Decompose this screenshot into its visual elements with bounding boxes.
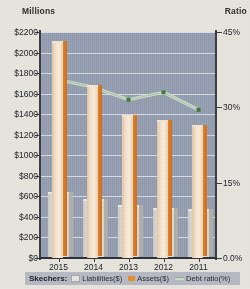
- left-axis-label: $2200: [14, 27, 38, 37]
- bar-side: [98, 85, 102, 256]
- bar-side: [133, 115, 137, 256]
- plot-area: [41, 32, 216, 258]
- debt-ratio-marker: [162, 90, 166, 94]
- bar-assets: [52, 43, 63, 258]
- bar-face: [192, 127, 203, 258]
- legend-item[interactable]: Debt ratio(%): [175, 274, 230, 283]
- left-axis-label: $1000: [14, 150, 38, 160]
- x-axis-label: 2015: [49, 262, 68, 272]
- x-axis-label: 2012: [154, 262, 173, 272]
- left-axis-title: Millions: [22, 6, 55, 16]
- left-axis-label: $1200: [14, 130, 38, 140]
- right-axis-tick: [217, 32, 222, 33]
- bar-face: [157, 122, 168, 258]
- right-axis-title: Ratio: [225, 6, 247, 16]
- chart-figure: Millions Ratio $0$200$400$600$800$1000$1…: [0, 0, 250, 289]
- chart-legend: Skechers: Liabilities($)Assets($)Debt ra…: [25, 272, 240, 285]
- left-axis-label: $600: [19, 191, 38, 201]
- legend-item[interactable]: Liabilities($): [71, 274, 122, 283]
- debt-ratio-marker: [197, 108, 201, 112]
- bar-assets: [87, 87, 98, 258]
- legend-item[interactable]: Assets($): [128, 274, 169, 283]
- right-axis-tick: [217, 258, 222, 259]
- left-axis-label: $1400: [14, 109, 38, 119]
- bar-side: [168, 120, 172, 256]
- right-axis-tick: [217, 183, 222, 184]
- x-axis-label: 2013: [119, 262, 138, 272]
- x-axis-label: 2014: [84, 262, 103, 272]
- bar-assets: [157, 122, 168, 258]
- right-axis-line: [215, 30, 217, 260]
- bar-assets: [122, 117, 133, 258]
- debt-ratio-marker: [127, 98, 131, 102]
- bar-side: [63, 41, 67, 256]
- left-axis-label: $1800: [14, 68, 38, 78]
- bar-face: [122, 117, 133, 258]
- left-axis-label: $200: [19, 232, 38, 242]
- liabilities-swatch: [71, 275, 80, 282]
- bar-face: [52, 43, 63, 258]
- left-axis-label: $400: [19, 212, 38, 222]
- legend-title: Skechers:: [29, 274, 67, 283]
- bar-side: [203, 125, 207, 256]
- debt-ratio-swatch: [175, 277, 184, 280]
- left-axis-label: $0: [29, 253, 38, 263]
- left-axis-line: [39, 30, 41, 260]
- left-axis-label: $1600: [14, 89, 38, 99]
- right-axis-label: 30%: [223, 102, 240, 112]
- legend-item-label: Assets($): [137, 274, 169, 283]
- assets-swatch: [128, 276, 135, 281]
- right-axis-label: 0.0%: [223, 253, 242, 263]
- right-axis-label: 45%: [223, 27, 240, 37]
- legend-item-label: Liabilities($): [82, 274, 122, 283]
- x-axis-label: 2011: [189, 262, 207, 272]
- right-axis-label: 15%: [223, 178, 240, 188]
- bar-face: [87, 87, 98, 258]
- debt-ratio-line-edge: [59, 80, 199, 110]
- right-axis-tick: [217, 107, 222, 108]
- left-axis-label: $800: [19, 171, 38, 181]
- legend-item-label: Debt ratio(%): [186, 274, 230, 283]
- left-axis-label: $2000: [14, 48, 38, 58]
- bar-assets: [192, 127, 203, 258]
